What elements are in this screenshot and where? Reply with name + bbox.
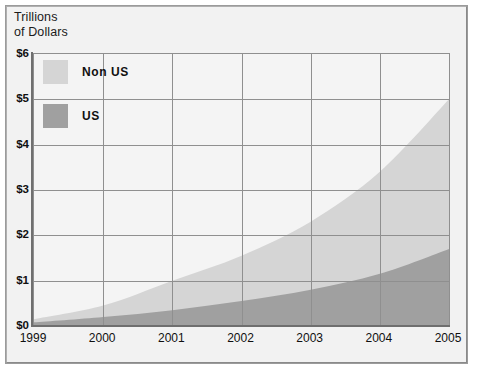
y-axis-tick-labels: $0$1$2$3$4$5$6 — [0, 0, 29, 371]
x-tick-label: 1999 — [20, 331, 47, 345]
legend-item-non-us: Non US — [43, 60, 129, 84]
x-tick-label: 2005 — [435, 331, 462, 345]
gridline-vertical — [380, 54, 381, 326]
plot-area — [33, 53, 450, 326]
legend-item-us: US — [43, 104, 100, 128]
gridline-vertical — [311, 54, 312, 326]
y-tick-label: $2 — [3, 229, 29, 240]
y-tick-label: $0 — [3, 320, 29, 331]
chart-figure: Trillions of Dollars $0$1$2$3$4$5$6 1999… — [0, 0, 477, 371]
gridline-vertical — [103, 54, 104, 326]
x-tick-label: 2003 — [296, 331, 323, 345]
gridline-vertical — [172, 54, 173, 326]
legend-swatch-us — [43, 104, 68, 128]
x-tick-label: 2000 — [89, 331, 116, 345]
x-tick-label: 2002 — [227, 331, 254, 345]
legend-swatch-non-us — [43, 60, 68, 84]
x-axis-line — [31, 325, 450, 327]
x-tick-label: 2001 — [158, 331, 185, 345]
y-tick-label: $3 — [3, 184, 29, 195]
legend-label-us: US — [82, 109, 100, 123]
legend-label-non-us: Non US — [82, 65, 129, 79]
plot-grid — [34, 54, 449, 326]
x-tick-label: 2004 — [365, 331, 392, 345]
y-tick-label: $5 — [3, 93, 29, 104]
y-tick-label: $4 — [3, 139, 29, 150]
y-tick-label: $6 — [3, 48, 29, 59]
y-tick-label: $1 — [3, 275, 29, 286]
gridline-vertical — [242, 54, 243, 326]
